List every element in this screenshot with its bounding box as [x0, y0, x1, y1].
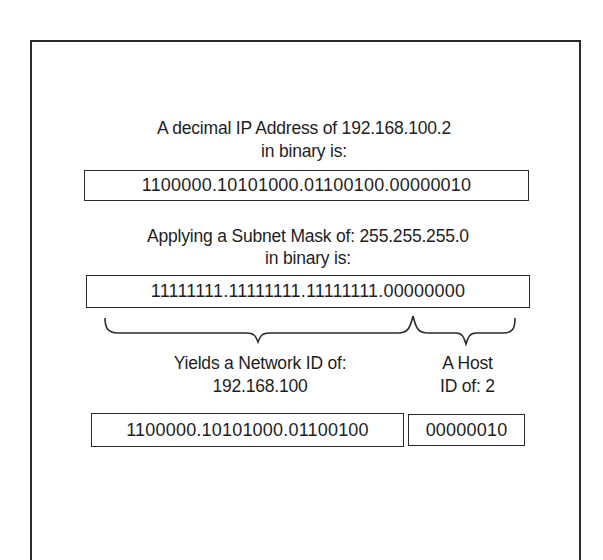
host-portion-brace	[413, 316, 515, 344]
host-id-binary-box: 00000010	[408, 414, 525, 446]
host-id-label-line2: ID of: 2	[420, 375, 515, 397]
host-id-label-line1: A Host	[420, 352, 515, 374]
network-portion-brace	[105, 316, 413, 342]
network-id-label-line1: Yields a Network ID of:	[140, 352, 380, 374]
network-id-binary-box: 1100000.10101000.01100100	[91, 413, 404, 447]
network-id-label-line2: 192.168.100	[140, 375, 380, 397]
